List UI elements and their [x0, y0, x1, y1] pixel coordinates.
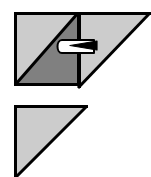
translation-arrow [58, 40, 98, 53]
reference-triangle-group [14, 105, 88, 177]
diagram-canvas: Geometric figure: a square divided by a … [0, 0, 151, 177]
geometry-figure [0, 0, 151, 177]
